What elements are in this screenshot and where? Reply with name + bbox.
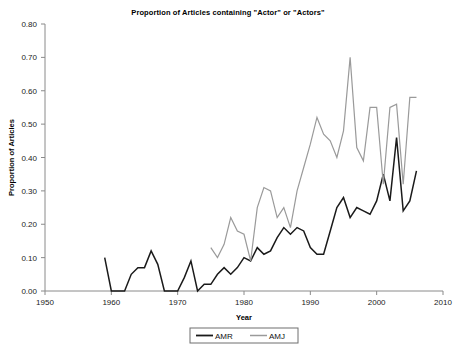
chart-legend[interactable]: AMRAMJ — [190, 328, 298, 343]
x-tick-label: 2010 — [434, 298, 452, 307]
x-axis-title: Year — [236, 313, 252, 322]
y-tick-label: 0.00 — [21, 287, 37, 296]
x-tick-label: 1960 — [102, 298, 120, 307]
x-tick-label: 1970 — [169, 298, 187, 307]
x-tick-label: 1990 — [301, 298, 319, 307]
y-tick-label: 0.60 — [21, 87, 37, 96]
y-tick-label: 0.30 — [21, 187, 37, 196]
series-container — [105, 57, 417, 291]
y-tick-label: 0.50 — [21, 120, 37, 129]
y-axis: 0.000.100.200.300.400.500.600.700.80 — [21, 20, 45, 296]
axis-titles: YearProportion of Articles — [7, 119, 252, 322]
legend-label-amr[interactable]: AMR — [215, 332, 233, 341]
y-tick-label: 0.10 — [21, 254, 37, 263]
chart-page: Proportion of Articles containing "Actor… — [0, 0, 456, 350]
x-tick-label: 2000 — [368, 298, 386, 307]
y-axis-title: Proportion of Articles — [7, 119, 16, 196]
y-tick-label: 0.80 — [21, 20, 37, 29]
series-line-amr — [105, 137, 417, 291]
series-line-amj — [211, 57, 417, 261]
x-tick-label: 1950 — [36, 298, 54, 307]
y-tick-label: 0.40 — [21, 154, 37, 163]
line-chart-plot: 0.000.100.200.300.400.500.600.700.80 195… — [0, 0, 456, 350]
legend-label-amj[interactable]: AMJ — [269, 332, 285, 341]
y-tick-label: 0.20 — [21, 220, 37, 229]
x-tick-label: 1980 — [235, 298, 253, 307]
y-tick-label: 0.70 — [21, 53, 37, 62]
x-axis: 1950196019701980199020002010 — [36, 291, 452, 307]
